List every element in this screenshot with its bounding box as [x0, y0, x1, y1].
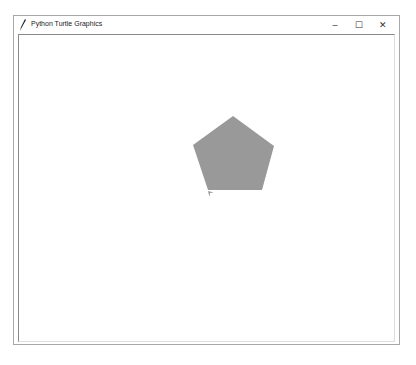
- drawing-layer: [0, 0, 416, 365]
- pentagon-shape: [193, 116, 274, 190]
- turtle-cursor-icon: [206, 189, 214, 197]
